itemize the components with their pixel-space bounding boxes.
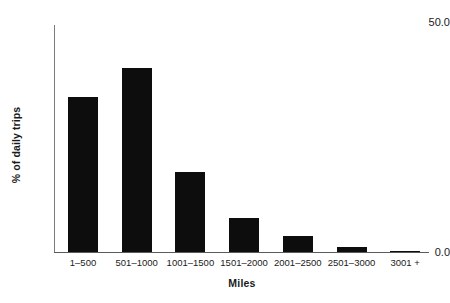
x-axis-line bbox=[54, 252, 429, 253]
x-axis-title: Miles bbox=[55, 277, 429, 289]
x-axis-tick-label: 1–500 bbox=[52, 257, 114, 269]
x-axis-tick-label: 1001–1500 bbox=[159, 257, 221, 269]
x-axis-tick-label: 1501–2000 bbox=[213, 257, 275, 269]
y-axis-title: % of daily trips bbox=[10, 75, 22, 215]
x-axis-tick-label: 3001 + bbox=[374, 257, 436, 269]
x-axis-tick-label: 2001–2500 bbox=[267, 257, 329, 269]
bar bbox=[283, 236, 313, 252]
bar-chart: % of daily trips 50.0 0.0 Miles 1–500501… bbox=[0, 0, 450, 303]
plot-area bbox=[55, 25, 429, 252]
bar bbox=[122, 68, 152, 252]
bar bbox=[68, 97, 98, 252]
bar bbox=[390, 251, 420, 252]
x-axis-tick-label: 2501–3000 bbox=[321, 257, 383, 269]
bar bbox=[175, 172, 205, 252]
bar bbox=[229, 218, 259, 253]
x-axis-tick-label: 501–1000 bbox=[106, 257, 168, 269]
bar bbox=[337, 247, 367, 252]
